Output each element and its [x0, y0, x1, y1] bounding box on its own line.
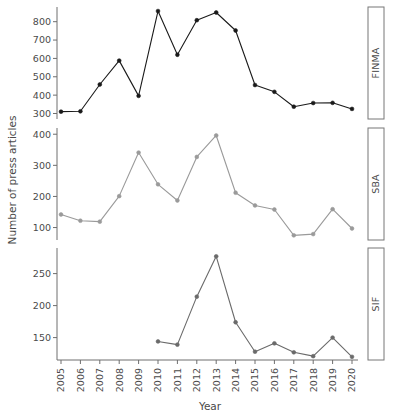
x-tick-label-2015: 2015: [249, 368, 260, 392]
data-point-sba-2005: [59, 213, 63, 217]
chart-background: [0, 0, 398, 415]
data-point-sba-2015: [253, 204, 257, 208]
data-point-sif-2015: [253, 350, 257, 354]
y-tick-label-finma-600: 600: [33, 53, 51, 64]
x-tick-label-2011: 2011: [172, 368, 183, 392]
data-point-sif-2011: [176, 343, 180, 347]
data-point-finma-2007: [98, 83, 102, 87]
data-point-sba-2018: [311, 232, 315, 236]
data-point-finma-2005: [59, 110, 63, 114]
data-point-finma-2019: [331, 101, 335, 105]
data-point-finma-2006: [79, 109, 83, 113]
y-tick-label-sba-300: 300: [33, 160, 51, 171]
data-point-sif-2013: [214, 254, 218, 258]
data-point-sba-2020: [350, 227, 354, 231]
data-point-sif-2016: [273, 341, 277, 345]
data-point-finma-2011: [176, 53, 180, 57]
data-point-finma-2015: [253, 83, 257, 87]
y-tick-label-finma-300: 300: [33, 108, 51, 119]
data-point-sif-2012: [195, 295, 199, 299]
y-axis-title: Number of press articles: [6, 116, 18, 245]
data-point-finma-2020: [350, 107, 354, 111]
x-tick-label-2009: 2009: [133, 368, 144, 392]
x-tick-label-2007: 2007: [94, 368, 105, 392]
x-tick-label-2017: 2017: [288, 368, 299, 392]
x-axis-title: Year: [198, 400, 222, 412]
data-point-finma-2014: [234, 29, 238, 33]
data-point-sba-2014: [234, 191, 238, 195]
data-point-finma-2012: [195, 18, 199, 22]
x-tick-label-2012: 2012: [191, 368, 202, 392]
x-tick-label-2014: 2014: [230, 368, 241, 392]
x-tick-label-2008: 2008: [114, 368, 125, 392]
data-point-finma-2018: [311, 101, 315, 105]
data-point-sba-2016: [273, 208, 277, 212]
data-point-sba-2013: [214, 134, 218, 138]
y-tick-label-finma-400: 400: [33, 90, 51, 101]
data-point-finma-2016: [273, 90, 277, 94]
data-point-sba-2012: [195, 155, 199, 159]
data-point-sif-2019: [331, 336, 335, 340]
data-point-finma-2009: [137, 94, 141, 98]
data-point-finma-2017: [292, 105, 296, 109]
data-point-sba-2007: [98, 220, 102, 224]
strip-label-sif: SIF: [370, 297, 381, 312]
data-point-sif-2014: [234, 320, 238, 324]
x-tick-label-2013: 2013: [211, 368, 222, 392]
data-point-sba-2019: [331, 207, 335, 211]
press-articles-multipanel-chart: Number of press articles Year 3004005006…: [0, 0, 398, 415]
x-tick-label-2005: 2005: [55, 368, 66, 392]
y-tick-label-sba-400: 400: [33, 129, 51, 140]
data-point-sba-2017: [292, 233, 296, 237]
data-point-finma-2013: [214, 11, 218, 15]
x-tick-label-2018: 2018: [308, 368, 319, 392]
data-point-sif-2010: [156, 340, 160, 344]
data-point-sba-2008: [117, 194, 121, 198]
data-point-sba-2011: [176, 199, 180, 203]
y-tick-label-sba-100: 100: [33, 222, 51, 233]
x-tick-label-2019: 2019: [327, 368, 338, 392]
data-point-finma-2008: [117, 59, 121, 63]
data-point-finma-2010: [156, 9, 160, 13]
x-tick-label-2006: 2006: [75, 368, 86, 392]
y-tick-label-sif-250: 250: [33, 268, 51, 279]
chart-canvas: Number of press articles Year 3004005006…: [0, 0, 398, 415]
data-point-sif-2018: [311, 354, 315, 358]
y-tick-label-finma-800: 800: [33, 16, 51, 27]
x-tick-label-2016: 2016: [269, 368, 280, 392]
y-tick-label-finma-700: 700: [33, 34, 51, 45]
data-point-sba-2006: [79, 219, 83, 223]
data-point-sba-2009: [137, 151, 141, 155]
data-point-sif-2020: [350, 355, 354, 359]
strip-label-sba: SBA: [370, 174, 381, 194]
y-tick-label-sif-200: 200: [33, 300, 51, 311]
data-point-sif-2017: [292, 350, 296, 354]
x-tick-label-2010: 2010: [152, 368, 163, 392]
y-tick-label-sba-200: 200: [33, 191, 51, 202]
y-tick-label-finma-500: 500: [33, 71, 51, 82]
y-tick-label-sif-150: 150: [33, 332, 51, 343]
x-tick-label-2020: 2020: [346, 368, 357, 392]
data-point-sba-2010: [156, 182, 160, 186]
strip-label-finma: FINMA: [370, 47, 381, 78]
